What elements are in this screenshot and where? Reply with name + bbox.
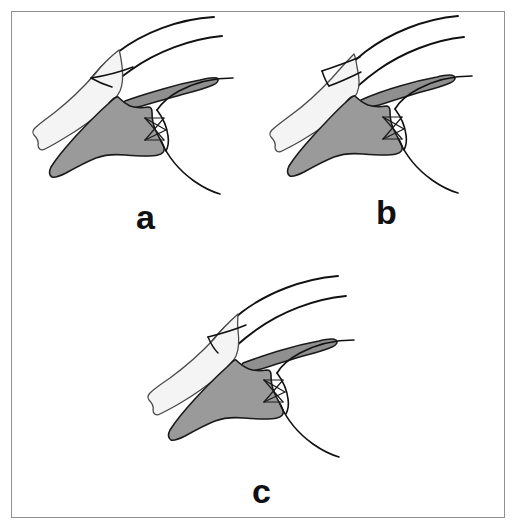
panel-c-drawing bbox=[128, 268, 368, 463]
panel-b bbox=[258, 14, 490, 199]
mandible-lower-arc bbox=[399, 140, 458, 193]
panel-c bbox=[128, 268, 368, 463]
mandible-lower-arc bbox=[161, 141, 220, 194]
figure-root: a bbox=[0, 0, 516, 532]
panel-a bbox=[18, 14, 250, 199]
panel-label-b: b bbox=[376, 195, 397, 229]
mandible-lower-arc bbox=[280, 404, 339, 457]
panel-label-c: c bbox=[252, 474, 271, 508]
panel-b-drawing bbox=[258, 14, 490, 199]
panel-label-a: a bbox=[136, 200, 155, 234]
panel-a-drawing bbox=[18, 14, 250, 199]
premaxilla-notch-line-2 bbox=[322, 71, 329, 86]
